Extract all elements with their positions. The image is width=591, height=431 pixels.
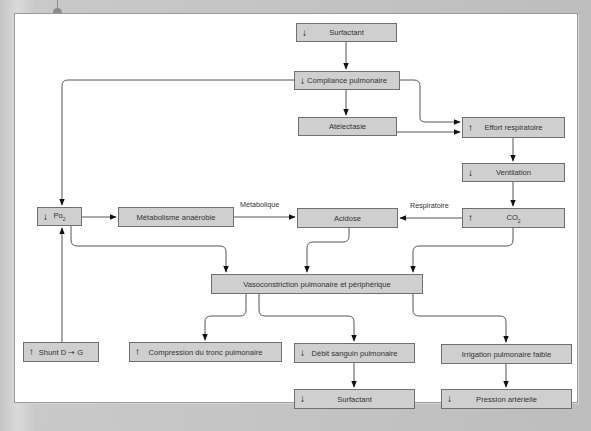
arrow-down-icon: ↓ [300, 394, 305, 404]
node-label: Pression artérielle [476, 395, 537, 404]
node-label: Shunt D ➝ G [39, 348, 84, 357]
node-compliance: ↓Compliance pulmonaire [294, 71, 400, 90]
arrow-down-icon: ↓ [447, 394, 452, 404]
node-label: CO2 [506, 213, 520, 224]
node-label: Surfactant [329, 28, 364, 37]
node-irrigation: Irrigation pulmonaire faible [441, 344, 572, 364]
node-acidose: Acidose [297, 208, 398, 228]
node-effort: ↑Effort respiratoire [462, 117, 565, 138]
node-surfactant_top: ↓Surfactant [296, 23, 397, 42]
edge-label-respiratoire: Respiratoire [410, 201, 449, 210]
node-label-subscript: 2 [518, 217, 521, 223]
arrow-down-icon: ↓ [302, 28, 307, 38]
node-label: Vasoconstriction pulmonaire et périphéri… [243, 280, 391, 289]
arrow-down-icon: ↓ [300, 76, 305, 86]
arrow-down-icon: ↓ [468, 168, 473, 178]
node-label: Surfactant [337, 395, 372, 404]
arrow-up-icon: ↑ [29, 347, 34, 357]
arrow-up-icon: ↑ [468, 123, 473, 133]
node-label: Atélectasie [329, 122, 366, 131]
arrow-down-icon: ↓ [43, 212, 48, 222]
node-label: Compliance pulmonaire [307, 76, 387, 85]
node-pression: ↓Pression artérielle [441, 389, 572, 409]
node-label: Effort respiratoire [484, 123, 542, 132]
node-label: Po2 [53, 211, 65, 222]
node-label: Métabolisme anaérobie [137, 213, 216, 222]
arrow-down-icon: ↓ [300, 348, 305, 358]
node-label: Acidose [334, 214, 361, 223]
node-metabolisme: Métabolisme anaérobie [118, 207, 234, 227]
node-label-subscript: 2 [63, 216, 66, 222]
node-label: Irrigation pulmonaire faible [462, 350, 552, 359]
node-shunt: ↑Shunt D ➝ G [23, 342, 99, 362]
arrow-up-icon: ↑ [135, 347, 140, 357]
node-label: Compression du tronc pulmonaire [149, 348, 263, 357]
node-surfactant_bottom: ↓Surfactant [294, 389, 415, 409]
edge-label-metabolique: Métabolique [240, 200, 279, 209]
node-compression: ↑Compression du tronc pulmonaire [129, 342, 282, 362]
node-label: Ventilation [496, 168, 531, 177]
node-vasoconstriction: Vasoconstriction pulmonaire et périphéri… [211, 274, 423, 294]
node-po2: ↓Po2 [37, 207, 82, 226]
node-atelectasie: Atélectasie [298, 117, 397, 136]
node-debit: ↓Débit sanguin pulmonaire [294, 343, 415, 363]
node-co2: ↑CO2 [462, 208, 565, 228]
node-ventilation: ↓Ventilation [462, 163, 565, 182]
arrow-up-icon: ↑ [468, 213, 473, 223]
node-label: Débit sanguin pulmonaire [311, 349, 397, 358]
